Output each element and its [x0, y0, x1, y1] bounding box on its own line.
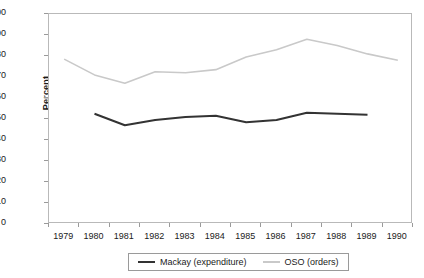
x-tick-mark — [382, 223, 383, 227]
plot-area — [48, 13, 412, 223]
y-tick-label: 10 — [0, 197, 6, 206]
legend-swatch-icon — [138, 261, 155, 263]
legend-item: OSO (orders) — [263, 257, 339, 267]
y-tick-label: 80 — [0, 50, 6, 59]
y-tick-label: 40 — [0, 134, 6, 143]
x-tick-mark — [291, 223, 292, 227]
y-tick-label: 100 — [0, 8, 6, 17]
y-tick-label: 20 — [0, 176, 6, 185]
y-tick-label: 50 — [0, 113, 6, 122]
x-tick-mark — [109, 223, 110, 227]
y-tick-label: 70 — [0, 71, 6, 80]
legend-label: Mackay (expenditure) — [160, 257, 247, 267]
legend-swatch-icon — [263, 261, 280, 263]
x-tick-mark — [351, 223, 352, 227]
x-tick-label: 1990 — [377, 231, 417, 241]
x-tick-mark — [321, 223, 322, 227]
y-tick-label: 30 — [0, 155, 6, 164]
x-tick-mark — [200, 223, 201, 227]
x-tick-mark — [139, 223, 140, 227]
y-tick-label: 90 — [0, 29, 6, 38]
series-lines — [49, 14, 413, 224]
series-line — [64, 39, 398, 83]
x-tick-mark — [78, 223, 79, 227]
legend-label: OSO (orders) — [285, 257, 339, 267]
y-tick-label: 60 — [0, 92, 6, 101]
series-line — [95, 113, 368, 126]
legend-item: Mackay (expenditure) — [138, 257, 247, 267]
x-tick-mark — [230, 223, 231, 227]
y-tick-label: 0 — [0, 218, 6, 227]
x-tick-mark — [48, 223, 49, 227]
x-tick-mark — [169, 223, 170, 227]
x-tick-mark — [260, 223, 261, 227]
chart-legend: Mackay (expenditure)OSO (orders) — [128, 253, 349, 271]
x-tick-mark — [412, 223, 413, 227]
line-chart: Percent 1009080706050403020100 197919801… — [0, 0, 424, 278]
